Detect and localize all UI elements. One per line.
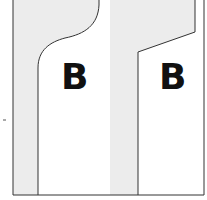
- diagram-canvas: [0, 0, 207, 200]
- left-panel-label: B: [61, 59, 88, 95]
- right-panel-label: B: [159, 59, 186, 95]
